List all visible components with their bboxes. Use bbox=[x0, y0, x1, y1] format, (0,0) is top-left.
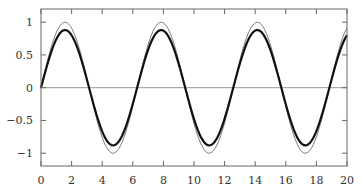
x-tick-label: 8 bbox=[160, 174, 167, 187]
x-tick-label: 14 bbox=[248, 174, 262, 187]
x-axis: 02468101214161820 bbox=[38, 9, 355, 187]
x-tick-label: 18 bbox=[309, 174, 323, 187]
x-tick-label: 10 bbox=[187, 174, 201, 187]
x-tick-label: 12 bbox=[218, 174, 232, 187]
chart: 02468101214161820 10.50−0.5−1 bbox=[0, 0, 362, 193]
x-tick-label: 2 bbox=[68, 174, 75, 187]
y-tick-label: −1 bbox=[17, 147, 33, 160]
x-tick-label: 4 bbox=[99, 174, 106, 187]
x-tick-label: 20 bbox=[340, 174, 354, 187]
x-tick-label: 16 bbox=[279, 174, 293, 187]
x-tick-label: 6 bbox=[129, 174, 136, 187]
y-tick-label: 1 bbox=[26, 16, 33, 29]
y-tick-label: −0.5 bbox=[6, 114, 33, 127]
y-tick-label: 0 bbox=[26, 82, 33, 95]
y-tick-label: 0.5 bbox=[16, 49, 34, 62]
x-tick-label: 0 bbox=[38, 174, 45, 187]
